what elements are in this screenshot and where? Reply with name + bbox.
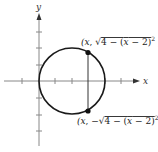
upper-point xyxy=(85,50,90,55)
lower-point xyxy=(85,108,90,113)
x-axis-arrow-icon xyxy=(133,79,140,84)
x-axis xyxy=(4,78,140,84)
x-axis-label: x xyxy=(143,76,148,86)
upper-point-label: (x, √4 − (x − 2)2 ) xyxy=(81,35,158,47)
lower-point-label: (x, −√4 − (x − 2)2 ) xyxy=(77,114,158,126)
y-axis-label: y xyxy=(35,2,42,12)
y-axis-arrow-icon xyxy=(37,13,42,20)
circle-diagram: x y (x, √4 − (x − 2)2 ) (x, −√4 − (x − 2… xyxy=(0,0,158,152)
